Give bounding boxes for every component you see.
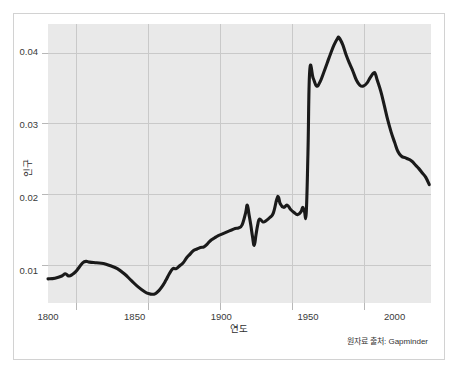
x-tick-label-1850: 1850: [124, 311, 145, 322]
y-tick-label-0.01: 0.01: [20, 265, 39, 276]
x-tick-label-1900: 1900: [211, 311, 232, 322]
x-tick-label-1800: 1800: [37, 311, 58, 322]
x-axis-title: 연도: [230, 323, 248, 334]
y-axis-title: 인구: [22, 159, 33, 177]
y-tick-label-0.02: 0.02: [20, 192, 39, 203]
x-axis-tick-labels: 18001850190019502000: [37, 311, 405, 322]
y-tick-label-0.04: 0.04: [20, 46, 39, 57]
x-tick-label-2000: 2000: [384, 311, 405, 322]
x-tick-label-1950: 1950: [297, 311, 318, 322]
population-line-chart: 0.010.020.030.04 18001850190019502000 연도…: [0, 0, 461, 376]
plot-panel-background: [48, 24, 431, 303]
source-attribution: 원자료 출처: Gapminder: [347, 336, 429, 346]
y-tick-label-0.03: 0.03: [20, 119, 39, 130]
